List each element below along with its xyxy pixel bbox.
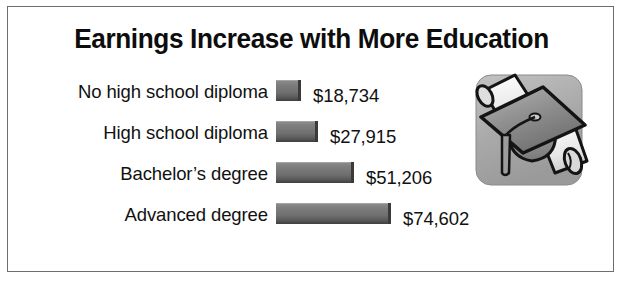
bar-value-label: $51,206 [366,167,432,189]
bar-value-label: $18,734 [313,85,379,107]
bar-segment [276,162,354,183]
graduation-cap-svg [469,69,589,191]
chart-title: Earnings Increase with More Education [17,24,606,55]
bar-value-label: $74,602 [403,208,469,230]
bar-segment [276,80,301,101]
bar-segment [276,203,391,224]
bar-row: Advanced degree $74,602 [8,198,615,239]
bar-category-label: High school diploma [18,122,268,144]
chart-figure: Earnings Increase with More Education No… [0,0,623,281]
bar-category-label: Bachelor’s degree [18,163,268,185]
bar-category-label: Advanced degree [18,204,268,226]
bar-value-label: $27,915 [330,126,396,148]
bar-category-label: No high school diploma [18,81,268,103]
graduation-cap-icon [469,69,589,191]
chart-frame: Earnings Increase with More Education No… [7,6,614,272]
bar-segment [276,121,318,142]
bar-track: $74,602 [276,203,526,225]
